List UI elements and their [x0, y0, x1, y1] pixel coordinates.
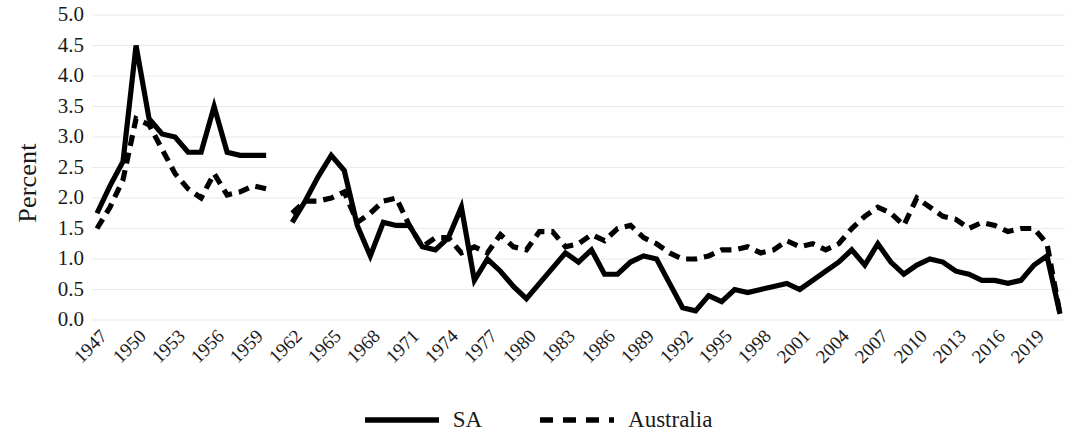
y-axis-tick-label: 0.0: [36, 309, 84, 330]
y-axis-tick-label: 2.0: [36, 187, 84, 208]
x-axis-tick-label: 1986: [572, 326, 618, 372]
chart-canvas: [92, 0, 1065, 330]
y-axis-tick-label: 3.0: [36, 126, 84, 147]
series-line: [292, 155, 1060, 314]
x-axis-tick-label: 2019: [1001, 326, 1047, 372]
y-axis-tick-label: 1.0: [36, 248, 84, 269]
y-axis-tick-label: 3.5: [36, 96, 84, 117]
series-line: [97, 46, 266, 214]
legend-item-australia[interactable]: Australia: [538, 407, 712, 433]
y-axis-tick-label: 1.5: [36, 218, 84, 239]
x-axis-tick-label: 1962: [260, 326, 306, 372]
x-axis-tick-label: 2004: [806, 326, 852, 372]
series-line: [97, 119, 266, 229]
x-axis-tick-label: 1980: [494, 326, 540, 372]
x-axis-tick-label: 1971: [377, 326, 423, 372]
legend-label: SA: [453, 407, 482, 433]
x-axis-tick-label: 2007: [845, 326, 891, 372]
plot-area: [92, 0, 1065, 330]
x-axis-tick-label: 1956: [182, 326, 228, 372]
x-axis-tick-label: 1995: [689, 326, 735, 372]
series-australia: [97, 119, 1060, 314]
y-axis-tick-label: 4.0: [36, 65, 84, 86]
x-axis-tick-label: 1965: [299, 326, 345, 372]
line-chart: Percent 0.00.51.01.52.02.53.03.54.04.55.…: [0, 0, 1075, 439]
x-axis-tick-label: 1989: [611, 326, 657, 372]
legend-label: Australia: [628, 407, 712, 433]
x-axis-tick-label: 2016: [962, 326, 1008, 372]
y-axis-tick-label: 0.5: [36, 279, 84, 300]
x-axis-tick-label: 1992: [650, 326, 696, 372]
legend-item-sa[interactable]: SA: [363, 407, 482, 433]
x-axis-tick-label: 2010: [884, 326, 930, 372]
y-axis-tick-label: 5.0: [36, 4, 84, 25]
x-axis-tick-label: 1959: [221, 326, 267, 372]
solid-line-icon: [363, 414, 441, 426]
chart-legend: SAAustralia: [0, 400, 1075, 439]
y-axis-tick-labels: 0.00.51.01.52.02.53.03.54.04.55.0: [36, 0, 84, 340]
x-axis-tick-label: 1953: [143, 326, 189, 372]
x-axis-tick-label: 1983: [533, 326, 579, 372]
x-axis-tick-label: 1998: [728, 326, 774, 372]
x-axis-tick-labels: 1947195019531956195919621965196819711974…: [92, 326, 1065, 398]
y-axis-tick-label: 2.5: [36, 157, 84, 178]
x-axis-tick-label: 1977: [455, 326, 501, 372]
x-axis-tick-label: 2013: [923, 326, 969, 372]
x-axis-tick-label: 1968: [338, 326, 384, 372]
dashed-line-icon: [538, 414, 616, 426]
gridlines: [92, 15, 1065, 320]
x-axis-tick-label: 2001: [767, 326, 813, 372]
y-axis-tick-label: 4.5: [36, 35, 84, 56]
x-axis-tick-label: 1974: [416, 326, 462, 372]
x-axis-tick-label: 1950: [104, 326, 150, 372]
series-sa: [97, 46, 1060, 314]
